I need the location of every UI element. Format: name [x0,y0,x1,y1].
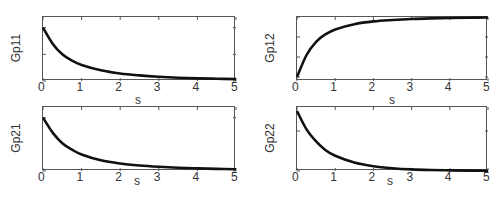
y-axis-label: Gp11 [9,28,23,68]
line-plot [297,17,488,81]
x-tick-label: 2 [115,81,122,93]
x-tick-label: 1 [330,171,337,183]
x-tick-label: 4 [445,81,452,93]
x-tick-label: 2 [368,81,375,93]
series-line-gp11 [43,28,236,79]
x-tick-label: 1 [77,171,84,183]
plot-area [296,16,487,80]
x-axis-label: s [389,93,395,107]
x-tick-label: 3 [154,81,161,93]
plot-area [42,106,235,170]
plot-area [296,106,487,170]
x-tick-label: 2 [368,171,375,183]
x-axis-label: s [134,174,140,188]
x-tick-label: 1 [330,81,337,93]
series-line-gp12 [297,18,488,77]
x-tick-label: 3 [407,81,414,93]
x-axis-label: s [387,174,393,188]
x-tick-label: 5 [231,171,238,183]
series-line-gp22 [297,111,488,171]
x-tick-label: 2 [115,171,122,183]
x-tick-label: 5 [483,81,490,93]
x-axis-label: s [135,93,141,107]
line-plot [43,17,236,81]
x-tick-label: 0 [38,171,45,183]
x-tick-label: 4 [445,171,452,183]
x-tick-label: 3 [407,171,414,183]
x-tick-label: 0 [38,81,45,93]
x-tick-label: 3 [154,171,161,183]
line-plot [297,107,488,171]
y-axis-label: Gp12 [263,28,277,68]
x-tick-label: 1 [77,81,84,93]
x-tick-label: 4 [192,171,199,183]
series-line-gp21 [43,118,236,170]
x-tick-label: 0 [292,81,299,93]
x-tick-label: 4 [192,81,199,93]
line-plot [43,107,236,171]
y-axis-label: Gp21 [9,118,23,158]
plot-area [42,16,235,80]
x-tick-label: 0 [292,171,299,183]
x-tick-label: 5 [231,81,238,93]
y-axis-label: Gp22 [263,118,277,158]
x-tick-label: 5 [483,171,490,183]
